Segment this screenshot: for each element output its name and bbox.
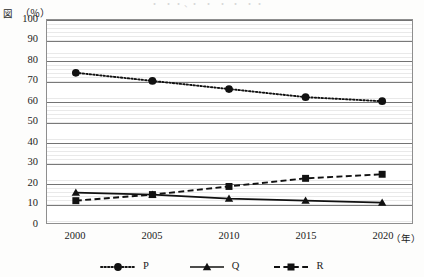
y-tick-0: 0 xyxy=(0,219,38,229)
y-tick-70: 70 xyxy=(0,75,38,85)
triangle-marker xyxy=(189,259,225,271)
y-tick-90: 90 xyxy=(0,34,38,44)
legend-label-P: P xyxy=(143,260,149,271)
datapoint-P-2015 xyxy=(302,93,310,101)
y-tick-40: 40 xyxy=(0,137,38,147)
chart-figure: ・ ・・、・ ・ ・ ・ ・・ 図 （％） 100908070605040302… xyxy=(0,0,424,277)
datapoint-P-2000 xyxy=(72,69,80,77)
series-P xyxy=(72,69,386,105)
legend-label-Q: Q xyxy=(232,260,240,271)
datapoint-P-2020 xyxy=(378,97,386,105)
datapoint-R-2000 xyxy=(72,197,79,204)
y-tick-20: 20 xyxy=(0,178,38,188)
x-tick-2010: 2010 xyxy=(204,230,254,241)
legend-item-Q[interactable]: Q xyxy=(189,256,240,274)
y-tick-10: 10 xyxy=(0,198,38,208)
datapoint-R-2005 xyxy=(149,191,156,198)
data-series-layer xyxy=(47,20,412,223)
circle-marker xyxy=(100,259,136,271)
x-axis-unit-label: （年） xyxy=(391,231,421,245)
y-tick-80: 80 xyxy=(0,55,38,65)
datapoint-P-2005 xyxy=(149,77,157,85)
clipped-top-text: ・ ・・、・ ・ ・ ・ ・・ xyxy=(150,0,424,9)
y-tick-30: 30 xyxy=(0,157,38,167)
x-tick-2005: 2005 xyxy=(127,230,177,241)
datapoint-R-2020 xyxy=(379,171,386,178)
x-tick-2000: 2000 xyxy=(50,230,100,241)
x-tick-2015: 2015 xyxy=(281,230,331,241)
datapoint-R-2015 xyxy=(302,175,309,182)
legend-item-P[interactable]: P xyxy=(100,256,149,274)
y-tick-50: 50 xyxy=(0,116,38,126)
y-tick-100: 100 xyxy=(0,14,38,24)
chart-legend: PQR xyxy=(100,256,350,274)
legend-item-R[interactable]: R xyxy=(273,256,323,274)
datapoint-R-2010 xyxy=(226,183,233,190)
datapoint-P-2010 xyxy=(225,85,233,93)
y-tick-60: 60 xyxy=(0,96,38,106)
square-marker xyxy=(273,259,309,271)
plot-area xyxy=(46,19,413,224)
legend-label-R: R xyxy=(316,260,323,271)
